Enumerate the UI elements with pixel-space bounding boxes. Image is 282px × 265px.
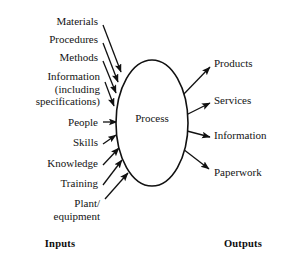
output-arrow [187,131,210,137]
input-label: Knowledge [47,157,98,169]
output-label: Paperwork [214,166,262,178]
input-label: Materials [56,15,98,27]
output-label: Products [214,57,253,69]
input-label: Skills [73,136,98,148]
inputs-caption: Inputs [45,238,75,249]
output-arrow [186,103,210,115]
output-arrow [183,149,209,169]
input-arrow [103,61,116,93]
output-label: Services [214,94,251,106]
outputs-caption: Outputs [224,238,262,249]
process-diagram: MaterialsProceduresMethodsInformation(in… [0,0,282,265]
input-arrow [103,148,119,165]
process-label: Process [135,112,169,124]
input-label: People [68,116,98,128]
output-label: Information [214,129,267,141]
input-arrow [103,43,118,82]
input-label: Training [61,177,99,189]
input-label: Information(includingspecifications) [36,70,100,108]
output-arrow [181,67,210,97]
input-label: Plant/equipment [54,197,100,222]
input-arrow [103,160,122,185]
input-label: Methods [60,51,99,63]
input-label: Procedures [49,33,98,45]
input-arrow [103,135,116,144]
